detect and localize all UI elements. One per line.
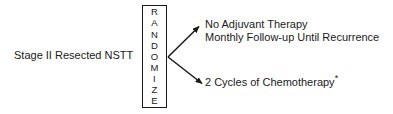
randomize-letter: N	[151, 30, 158, 40]
branch-label-no-adjuvant-therapy: No Adjuvant Therapy Monthly Follow-up Un…	[205, 18, 379, 43]
footnote-asterisk: *	[335, 73, 339, 83]
randomize-letter: O	[151, 52, 159, 62]
branch-label-line: Monthly Follow-up Until Recurrence	[205, 31, 379, 44]
randomize-letter: Z	[151, 85, 157, 95]
arrow-to-chemotherapy	[168, 57, 202, 84]
randomize-letter: I	[153, 74, 156, 84]
randomize-letter: R	[151, 7, 158, 17]
entry-population-label: Stage II Resected NSTT	[14, 49, 133, 62]
branch-label-line: 2 Cycles of Chemotherapy*	[205, 76, 338, 89]
randomize-letter: A	[151, 18, 158, 28]
randomize-letter: E	[151, 96, 158, 106]
branch-label-text: 2 Cycles of Chemotherapy	[205, 76, 335, 88]
randomization-flow-diagram: Stage II Resected NSTT R A N D O M I Z E…	[0, 0, 393, 114]
randomize-label-vertical: R A N D O M I Z E	[143, 6, 166, 107]
branch-label-line: No Adjuvant Therapy	[205, 18, 379, 31]
arrow-to-no-adjuvant-therapy	[168, 27, 199, 58]
branch-label-chemotherapy: 2 Cycles of Chemotherapy*	[205, 76, 338, 89]
randomize-letter: M	[150, 63, 158, 73]
randomize-box: R A N D O M I Z E	[142, 5, 167, 108]
randomize-letter: D	[151, 41, 158, 51]
